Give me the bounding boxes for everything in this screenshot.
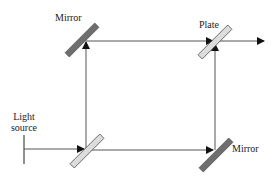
- light-source-label: Light source: [6, 111, 42, 133]
- beam-splitter-input: [70, 134, 104, 168]
- light-source-label-line1: Light: [6, 111, 42, 122]
- mirror-bottom-right: [199, 138, 233, 172]
- mirror-bottom-label: Mirror: [232, 143, 259, 154]
- plate-label: Plate: [199, 19, 219, 30]
- light-source-label-line2: source: [6, 122, 42, 133]
- mirror-top-label: Mirror: [55, 12, 82, 23]
- mirror-top-left: [65, 23, 99, 57]
